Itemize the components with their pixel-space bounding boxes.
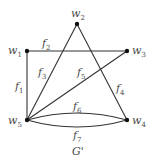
node-label-w3: w3 xyxy=(132,44,146,59)
edge-f7 xyxy=(27,120,127,127)
edge-f3 xyxy=(27,24,77,120)
edge-label-f7: f7 xyxy=(72,129,82,144)
node-label-w2: w2 xyxy=(71,7,85,22)
node-label-w5: w5 xyxy=(8,114,22,129)
graph-caption: G' xyxy=(72,145,84,158)
node-w1 xyxy=(25,49,29,53)
edge-label-f3: f3 xyxy=(37,66,47,81)
graph-canvas: w2 w1 w3 w5 w4 f2 f3 f5 f1 f4 f6 f7 G' xyxy=(0,0,153,167)
node-label-w4: w4 xyxy=(132,114,146,129)
graph-diagram: w2 w1 w3 w5 w4 f2 f3 f5 f1 f4 f6 f7 G' xyxy=(0,0,153,167)
edge-label-f6: f6 xyxy=(72,100,82,115)
edge-label-f4: f4 xyxy=(115,82,125,97)
edge-label-f2: f2 xyxy=(41,37,51,52)
node-w3 xyxy=(125,49,129,53)
edge-label-f5: f5 xyxy=(76,66,86,81)
edge-label-f1: f1 xyxy=(14,80,24,95)
edge-f4 xyxy=(77,24,127,120)
node-label-w1: w1 xyxy=(8,44,22,59)
node-w5 xyxy=(25,118,29,122)
node-w2 xyxy=(75,22,79,26)
node-w4 xyxy=(125,118,129,122)
